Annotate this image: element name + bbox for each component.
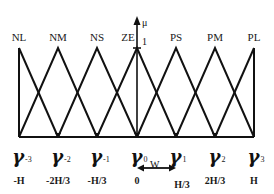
gamma-label-3: γ3 — [248, 148, 265, 166]
value-label-h3: H/3 — [174, 180, 190, 190]
value-label-neg-h3: -H/3 — [88, 176, 107, 186]
gamma-label-neg2: γ-2 — [51, 148, 71, 166]
w-label: W — [150, 159, 159, 170]
set-label-nm: NM — [49, 32, 67, 43]
value-label-2h3: 2H/3 — [205, 176, 226, 186]
gamma-label-1: γ1 — [170, 148, 187, 166]
gamma-label-0: γ0 — [131, 148, 148, 166]
gamma-label-neg1: γ-1 — [90, 148, 110, 166]
membership-pm — [176, 48, 254, 137]
value-label-neg-h: -H — [13, 176, 24, 186]
set-label-pm: PM — [207, 32, 223, 43]
value-label-h: H — [250, 176, 258, 186]
mu-tick-label: 1 — [142, 36, 147, 47]
membership-ps — [137, 48, 215, 137]
set-label-ns: NS — [90, 32, 104, 43]
set-label-ze: ZE — [121, 32, 134, 43]
set-label-pl: PL — [248, 32, 261, 43]
gamma-label-2: γ2 — [209, 148, 226, 166]
membership-nm — [19, 48, 97, 137]
membership-ns — [58, 48, 137, 137]
value-label-zero: 0 — [135, 176, 140, 186]
mu-axis-arrow-icon — [134, 16, 141, 25]
gamma-label-neg3: γ-3 — [12, 148, 32, 166]
set-label-ps: PS — [170, 32, 182, 43]
value-label-neg-2h3: -2H/3 — [46, 176, 70, 186]
set-label-nl: NL — [12, 32, 27, 43]
mu-axis-label: μ — [142, 17, 147, 28]
